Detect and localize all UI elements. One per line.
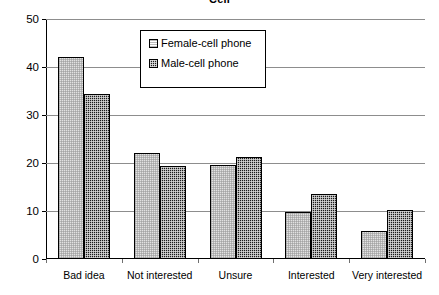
y-axis-tick-label: 20 — [26, 157, 39, 169]
bar-female — [134, 153, 160, 259]
y-axis-tick-label: 30 — [26, 109, 39, 121]
bar-group — [58, 57, 110, 259]
y-axis-tick — [42, 19, 46, 20]
gridline — [46, 19, 425, 20]
legend-swatch-male-icon — [149, 59, 158, 68]
x-axis-category-label: Unsure — [219, 269, 253, 281]
y-axis-tick — [42, 67, 46, 68]
legend-swatch-female-icon — [149, 39, 158, 48]
x-axis-tick — [425, 259, 426, 263]
bar-group — [210, 157, 262, 259]
chart-title: Cell — [0, 0, 439, 5]
bar-female — [361, 231, 387, 259]
y-axis-tick-label: 10 — [26, 205, 39, 217]
bar-group — [134, 153, 186, 259]
chart-legend: Female-cell phone Male-cell phone — [140, 30, 266, 88]
bar-female — [58, 57, 84, 259]
bar-male — [387, 210, 413, 259]
bar-female — [210, 165, 236, 259]
x-axis-tick — [46, 259, 47, 263]
bar-male — [84, 94, 110, 259]
legend-label-female: Female-cell phone — [161, 37, 252, 50]
bar-male — [160, 166, 186, 259]
y-axis-tick — [42, 163, 46, 164]
x-axis-category-label: Very interested — [352, 269, 422, 281]
x-axis-tick — [198, 259, 199, 263]
bar-female — [285, 212, 311, 259]
x-axis-tick — [349, 259, 350, 263]
x-axis-tick — [122, 259, 123, 263]
legend-label-male: Male-cell phone — [161, 57, 239, 70]
x-axis-category-label: Bad idea — [63, 269, 104, 281]
bar-group — [285, 194, 337, 259]
legend-item-female: Female-cell phone — [149, 37, 265, 50]
bar-male — [236, 157, 262, 259]
y-axis-tick-label: 50 — [26, 13, 39, 25]
bar-group — [361, 210, 413, 259]
bar-chart: Cell 01020304050 Bad ideaNot interestedU… — [0, 0, 439, 295]
x-axis-tick — [273, 259, 274, 263]
y-axis-tick — [42, 115, 46, 116]
y-axis-tick-label: 40 — [26, 61, 39, 73]
y-axis-tick-label: 0 — [33, 253, 39, 265]
y-axis-tick — [42, 211, 46, 212]
y-axis-line — [46, 19, 47, 259]
x-axis-category-label: Interested — [288, 269, 335, 281]
legend-item-male: Male-cell phone — [149, 57, 265, 70]
bar-male — [311, 194, 337, 259]
x-axis-category-label: Not interested — [127, 269, 192, 281]
